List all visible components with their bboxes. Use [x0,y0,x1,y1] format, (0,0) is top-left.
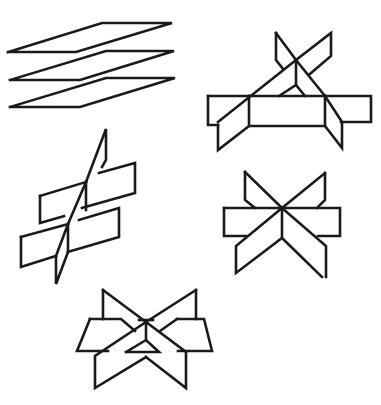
plane-edge [86,129,106,182]
plane-edge [325,96,371,122]
figure-three-planes-triangular-prism [77,290,212,388]
plane-edge [90,319,135,331]
figure-parallel-planes [8,23,175,107]
plane-edge [224,208,246,236]
plane-edge [21,237,56,267]
plane-edge [21,224,68,237]
figure-two-crossing-planes-on-horizontal [208,33,371,150]
figure-two-parallel-cut-by-third [21,129,135,284]
plane-edge [126,340,159,352]
plane-edge [325,96,342,148]
plane-edge [218,125,249,150]
plane-edge [279,85,305,96]
diagram-canvas [0,0,381,405]
plane-edge [208,96,218,125]
plane-edge [245,172,326,277]
plane-edge [218,33,331,122]
figure-three-planes-common-line [224,172,340,277]
plane-edge [8,23,172,52]
plane-edge [56,224,68,284]
plane-edge [160,319,177,331]
plane-edge [77,319,108,351]
plane-edge [177,319,212,351]
plane-edge [40,182,86,196]
plane-edge [10,78,175,107]
plane-edge [236,173,325,277]
planes-diagram [0,0,381,405]
plane-edge [40,196,64,223]
plane-edge [249,96,325,126]
plane-edge [68,208,119,252]
plane-edge [10,51,174,80]
